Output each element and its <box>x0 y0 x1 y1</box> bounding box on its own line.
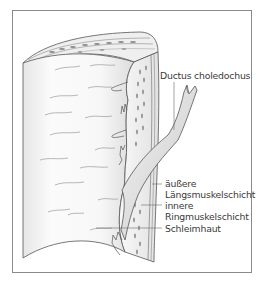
label-line-1: innere <box>165 200 249 211</box>
mucosa-surface <box>23 54 134 258</box>
duodenum-wall-illustration <box>0 0 261 283</box>
label-ductus-choledochus: Ductus choledochus <box>160 70 250 81</box>
label-line-1: äußere <box>165 178 255 189</box>
label-line-2: Ringmuskelschicht <box>165 211 249 222</box>
label-line-2: Längsmuskelschicht <box>165 189 255 200</box>
label-schleimhaut: Schleimhaut <box>165 223 221 234</box>
label-innere-ringmuskelschicht: innere Ringmuskelschicht <box>165 200 249 222</box>
label-aeussere-laengsmuskelschicht: äußere Längsmuskelschicht <box>165 178 255 200</box>
